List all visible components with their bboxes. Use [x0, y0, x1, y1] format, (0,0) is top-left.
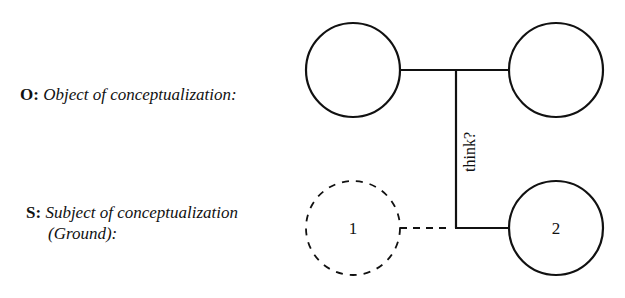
diagram-canvas: O: Object of conceptualization: S: Subje…: [0, 0, 625, 298]
node-2-label: 2: [552, 219, 561, 238]
object-right-node: [509, 23, 603, 117]
diagram-svg: 1 2 think?: [0, 0, 625, 298]
object-left-node: [306, 23, 400, 117]
node-1-label: 1: [349, 219, 358, 238]
think-relation-label: think?: [461, 132, 478, 172]
